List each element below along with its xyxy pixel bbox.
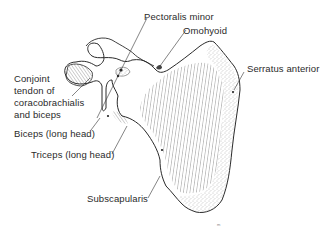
scapula-diagram: m Pectoralis minor Omohyoid Serratus ant… [0,0,322,245]
label-triceps-long-head: Triceps (long head) [31,149,114,161]
conjoint-tendon-area [66,64,93,86]
svg-text:m: m [217,222,221,227]
label-conjoint-tendon-line2: tendon of [14,85,55,97]
scapula-illustration: m [0,0,322,245]
label-pectoralis-minor: Pectoralis minor [144,11,214,23]
subscapularis-area [140,63,224,194]
label-conjoint-tendon-line3: coracobrachialis [14,97,84,109]
label-serratus-anterior: Serratus anterior [247,63,319,75]
label-conjoint-tendon-line4: and biceps [14,109,61,121]
label-subscapularis: Subscapularis [87,193,148,205]
label-biceps-long-head: Biceps (long head) [14,128,95,140]
label-omohyoid: Omohyoid [183,25,227,37]
label-conjoint-tendon-line1: Conjoint [14,73,50,85]
